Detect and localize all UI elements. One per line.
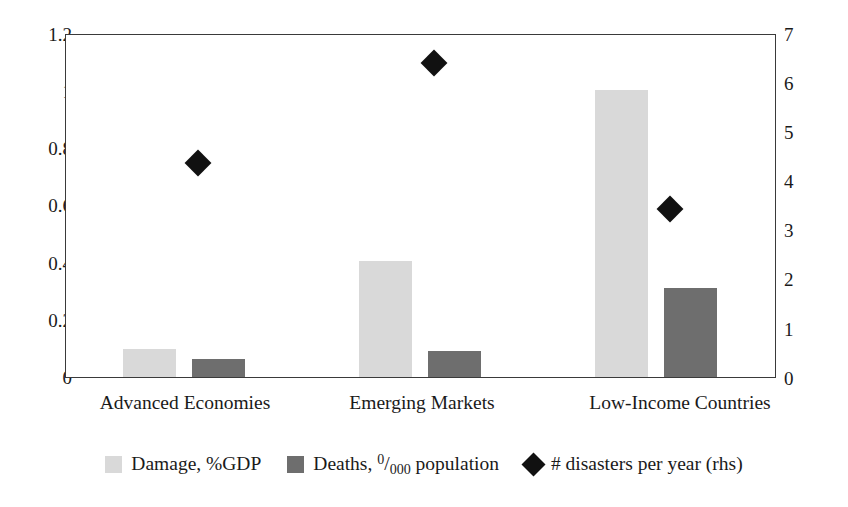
diamond-marker-low-income-countries [657,196,684,223]
right-axis-ticklabel: 4 [784,172,794,191]
bar-low-income-countries-damage [595,90,648,377]
right-axis-ticklabel: 6 [784,74,794,93]
bar-emerging-markets-damage [359,261,412,378]
diamond-marker-advanced-economies [185,149,212,176]
legend-diamond-icon [521,452,545,476]
legend-entry-damage[interactable]: Damage, %GDP [105,454,261,474]
legend-label-deaths: Deaths, 0/000 population [313,452,499,476]
right-axis-ticklabel: 2 [784,270,794,289]
bar-advanced-economies-deaths [192,359,245,377]
plot-area [65,34,776,378]
right-axis-ticklabel: 1 [784,320,794,339]
fraction-denominator: 000 [390,461,411,477]
legend-swatch-dark-icon [287,456,304,473]
legend-entry-disasters[interactable]: # disasters per year (rhs) [525,454,743,474]
disaster-impact-chart: 1.2 1 0.8 0.6 0.4 0.2 0 7 6 5 4 3 2 1 0 … [0,0,848,507]
legend-label-deaths-prefix: Deaths, [313,453,377,474]
diamond-marker-emerging-markets [421,49,448,76]
bar-emerging-markets-deaths [428,351,481,377]
category-label-advanced-economies: Advanced Economies [60,392,310,414]
legend-swatch-light-icon [105,456,122,473]
category-label-emerging-markets: Emerging Markets [307,392,537,414]
bar-advanced-economies-damage [123,349,176,377]
per-mille-fraction: 0/000 [377,452,410,476]
right-axis-ticklabel: 5 [784,123,794,142]
category-label-low-income-countries: Low-Income Countries [555,392,805,414]
fraction-numerator: 0 [377,451,384,467]
right-axis-ticklabel: 3 [784,221,794,240]
legend-label-disasters: # disasters per year (rhs) [551,454,743,474]
bars-layer [66,35,775,377]
legend-label-deaths-suffix: population [411,453,499,474]
chart-legend: Damage, %GDP Deaths, 0/000 population # … [0,452,848,476]
legend-label-damage: Damage, %GDP [131,454,261,474]
right-axis-ticklabel: 7 [784,25,794,44]
bar-low-income-countries-deaths [664,288,717,378]
legend-entry-deaths[interactable]: Deaths, 0/000 population [287,452,499,476]
right-axis-ticklabel: 0 [784,369,794,388]
